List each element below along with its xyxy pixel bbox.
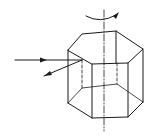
prism-top-face [68,31,143,64]
reflected-ray-arrowhead-icon [44,71,52,76]
prism-bottom-front-edges [68,102,143,118]
diagram-canvas [0,0,155,140]
hexagonal-prism-diagram [0,0,155,140]
rotation-arrowhead-icon [113,12,119,19]
rotation-arrow-icon [86,15,116,20]
incident-ray-arrowhead-icon [40,58,47,63]
prism-bottom-back-edges [68,84,143,103]
